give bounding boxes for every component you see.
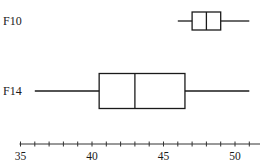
category-label: F14 [3, 84, 22, 98]
box-f10: F10 [3, 12, 249, 30]
category-label: F10 [3, 14, 22, 28]
boxplot-chart: 35404550 F10F14 [0, 0, 263, 164]
boxes: F10F14 [3, 12, 249, 109]
x-tick-label: 35 [15, 150, 27, 162]
x-tick-label: 50 [229, 150, 241, 162]
x-axis: 35404550 [15, 142, 260, 163]
box-iqr [99, 74, 185, 109]
x-tick-label: 45 [158, 150, 170, 162]
x-tick-label: 40 [86, 150, 98, 162]
box-f14: F14 [3, 74, 249, 109]
